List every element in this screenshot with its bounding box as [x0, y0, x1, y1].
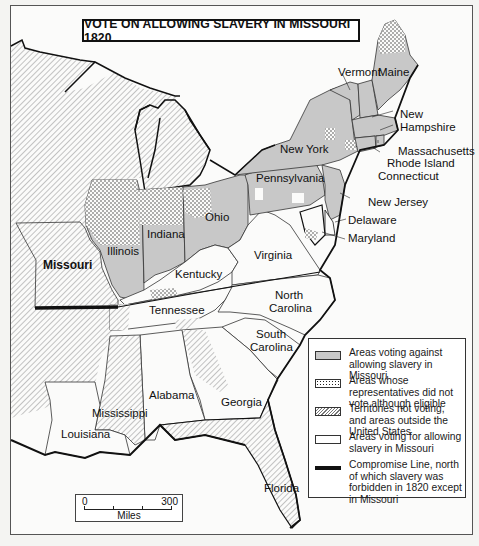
white-swatch-icon [315, 435, 341, 444]
dotted-swatch-icon [315, 379, 341, 388]
scale-tick [142, 506, 143, 509]
map-title: VOTE ON ALLOWING SLAVERY IN MISSOURI 182… [82, 19, 360, 42]
label-illinois: Illinois [107, 245, 139, 258]
massachusetts-state [352, 115, 398, 138]
label-north-carolina-line2: Carolina [269, 302, 312, 315]
legend-label: Compromise Line, north of which slavery … [349, 459, 464, 505]
label-indiana: Indiana [147, 228, 185, 241]
label-rhode-island: Rhode Island [387, 157, 455, 170]
label-georgia: Georgia [221, 396, 262, 409]
label-new-jersey: New Jersey [368, 196, 428, 209]
legend-item-compromise-line: Compromise Line, north of which slavery … [315, 459, 464, 505]
label-vermont: Vermont [338, 66, 381, 79]
label-kentucky: Kentucky [175, 268, 222, 281]
map-legend: Areas voting against allowing slavery in… [308, 338, 466, 498]
legend-label: Areas voting for allowing slavery in Mis… [349, 431, 464, 454]
label-tennessee: Tennessee [149, 304, 205, 317]
label-alabama: Alabama [149, 389, 194, 402]
label-maine: Maine [378, 66, 409, 79]
label-south-carolina-line1: South [256, 328, 286, 341]
label-louisiana: Louisiana [61, 428, 110, 441]
label-connecticut: Connecticut [378, 170, 439, 183]
label-mississippi: Mississippi [92, 407, 148, 420]
label-new-york: New York [280, 143, 329, 156]
label-south-carolina-line2: Carolina [250, 341, 293, 354]
scale-tick [84, 506, 85, 509]
scale-unit: Miles [76, 510, 182, 521]
label-new-hampshire-line2: Hampshire [400, 121, 456, 134]
hatched-swatch-icon [315, 407, 341, 416]
label-north-carolina-line1: North [275, 289, 303, 302]
compromise-line [35, 307, 118, 308]
thick-line-icon [315, 466, 341, 470]
label-pennsylvania: Pennsylvania [256, 172, 324, 185]
label-virginia: Virginia [254, 249, 292, 262]
legend-item-for: Areas voting for allowing slavery in Mis… [315, 431, 464, 454]
new-york-state [235, 85, 360, 175]
label-missouri: Missouri [43, 259, 92, 272]
scale-tick [171, 506, 172, 509]
label-maryland: Maryland [348, 232, 395, 245]
michigan-territory [135, 100, 210, 192]
label-new-hampshire-line1: New [400, 108, 423, 121]
label-delaware: Delaware [348, 214, 397, 227]
scale-bar: 0 300 Miles [75, 494, 183, 522]
label-florida: Florida [264, 482, 299, 495]
scale-end: 300 [161, 496, 178, 507]
scale-tick [113, 506, 114, 509]
label-ohio: Ohio [205, 211, 229, 224]
gray-swatch-icon [315, 351, 341, 360]
